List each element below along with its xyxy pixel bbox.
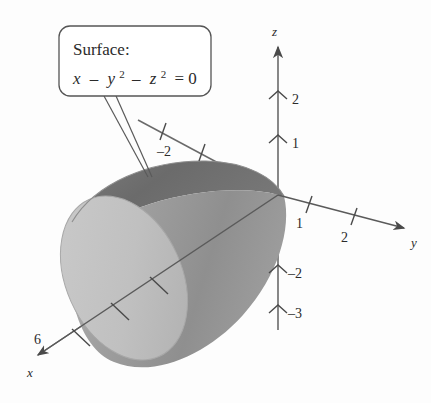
z-tick-label-neg2: –2: [287, 266, 302, 281]
callout-leader-line-2: [116, 96, 152, 177]
eq-minus-1: –: [89, 69, 99, 88]
paraboloid-surface: [36, 161, 286, 380]
eq-term-y: y: [106, 69, 116, 88]
eq-exp-y: 2: [119, 68, 125, 80]
eq-term-z: z: [149, 69, 157, 88]
x-axis-label: x: [26, 365, 33, 380]
z-tick-label-1: 1: [292, 136, 299, 151]
figure-svg: z y x 2 1 –2 –3 1 2 –2 6 Surface: x – y …: [0, 0, 431, 403]
callout-leader-line-1: [104, 96, 148, 177]
surface-figure: z y x 2 1 –2 –3 1 2 –2 6 Surface: x – y …: [0, 0, 431, 403]
y-tick-label-neg2: –2: [156, 144, 171, 159]
eq-equals-zero: = 0: [174, 69, 196, 88]
z-axis-label: z: [271, 24, 277, 39]
y-axis-label: y: [409, 235, 417, 250]
z-tick-label-neg3: –3: [287, 306, 302, 321]
surface-equation-callout: Surface: x – y 2 – z 2 = 0: [59, 26, 211, 177]
x-tick-label-6: 6: [34, 332, 41, 347]
eq-exp-z: 2: [161, 68, 167, 80]
z-tick-label-2: 2: [292, 92, 299, 107]
eq-term-x: x: [72, 69, 81, 88]
y-tick-label-2: 2: [341, 230, 348, 245]
eq-minus-2: –: [131, 69, 141, 88]
y-tick-label-1: 1: [296, 216, 303, 231]
callout-title-text: Surface:: [73, 40, 130, 59]
